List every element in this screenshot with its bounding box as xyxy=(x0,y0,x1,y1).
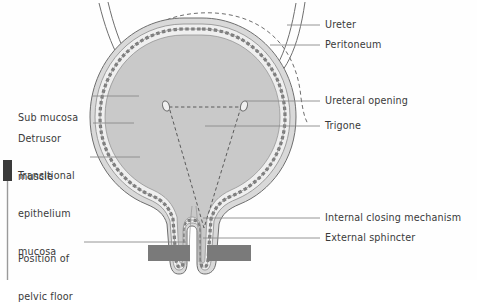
label-transitional-line1: Transitional xyxy=(18,170,75,183)
label-pelvic-floor-line2: pelvic floor xyxy=(18,291,73,304)
peritoneum-dashed-right-tail xyxy=(301,98,308,124)
label-internal-closing-mechanism: Internal closing mechanism xyxy=(325,212,461,225)
label-peritoneum: Peritoneum xyxy=(325,39,382,52)
label-position-of-pelvic-floor: Position of pelvic floor xyxy=(18,228,73,306)
page-edge-dark-bar xyxy=(3,160,12,181)
label-ureter: Ureter xyxy=(325,19,356,32)
label-detrusor-line1: Detrusor xyxy=(18,133,61,146)
label-ureteral-opening: Ureteral opening xyxy=(325,95,408,108)
label-trigone: Trigone xyxy=(325,120,361,133)
label-external-sphincter: External sphincter xyxy=(325,232,415,245)
label-transitional-line2: epithelium xyxy=(18,208,75,221)
bladder-lumen xyxy=(105,35,280,263)
label-pelvic-floor-line1: Position of xyxy=(18,253,73,266)
